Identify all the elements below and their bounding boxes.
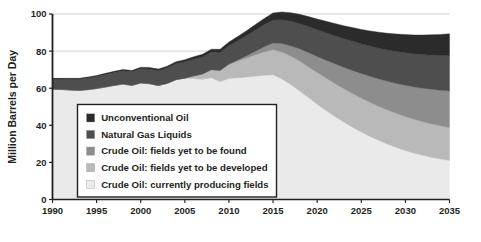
legend-swatch-4 [87, 180, 95, 188]
legend-label-3: Crude Oil: fields yet to be developed [101, 162, 267, 173]
x-axis-ticks-group: 1990199520002005201020152020202520302035 [42, 200, 461, 217]
y-tick-label-80: 80 [36, 46, 47, 57]
legend-label-4: Crude Oil: currently producing fields [101, 179, 268, 190]
legend-label-2: Crude Oil: fields yet to be found [101, 145, 247, 156]
x-tick-label-2000: 2000 [130, 205, 151, 216]
x-tick-label-1995: 1995 [86, 205, 108, 216]
stacked-area-chart: 020406080100 199019952000200520102015202… [0, 0, 481, 242]
legend-label-0: Unconventional Oil [101, 112, 188, 123]
y-tick-label-100: 100 [31, 8, 47, 19]
x-tick-label-2025: 2025 [351, 205, 373, 216]
legend-swatch-0 [87, 114, 95, 122]
y-tick-label-0: 0 [41, 194, 46, 205]
x-tick-label-2030: 2030 [395, 205, 416, 216]
legend-label-1: Natural Gas Liquids [101, 129, 192, 140]
y-tick-label-20: 20 [36, 157, 47, 168]
y-axis-ticks-group: 020406080100 [31, 8, 53, 205]
x-tick-label-2020: 2020 [307, 205, 328, 216]
y-tick-label-40: 40 [36, 120, 47, 131]
chart-legend: Unconventional OilNatural Gas LiquidsCru… [78, 105, 277, 198]
legend-swatch-1 [87, 130, 95, 138]
x-tick-label-1990: 1990 [42, 205, 63, 216]
x-tick-label-2035: 2035 [439, 205, 461, 216]
x-tick-label-2010: 2010 [218, 205, 239, 216]
legend-swatch-2 [87, 147, 95, 155]
y-axis-label-group: Million Barrels per Day [6, 50, 18, 164]
legend-swatch-3 [87, 164, 95, 172]
chart-root: 020406080100 199019952000200520102015202… [0, 0, 481, 242]
y-axis-title: Million Barrels per Day [6, 50, 18, 164]
y-tick-label-60: 60 [36, 83, 47, 94]
x-tick-label-2005: 2005 [174, 205, 196, 216]
x-tick-label-2015: 2015 [262, 205, 284, 216]
